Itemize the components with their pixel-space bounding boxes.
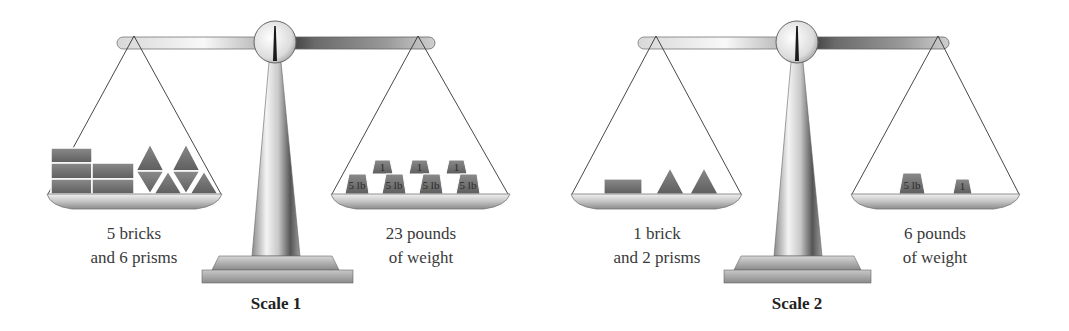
scale-1: 1 1 1 5 lb 5 lb 5 lb — [47, 21, 510, 313]
scale-2-title: Scale 2 — [772, 294, 823, 313]
weight-5lb: 5 lb — [345, 174, 369, 194]
weight-5lb: 5 lb — [899, 173, 925, 194]
scale-1-prisms — [136, 144, 218, 194]
scale-2-stem — [774, 62, 822, 256]
scale-2-bricks — [604, 179, 642, 194]
scale-1-left-label-line1: 5 bricks — [107, 224, 161, 243]
scale-1-right-label-line2: of weight — [389, 248, 454, 267]
weight-5lb: 5 lb — [419, 174, 443, 194]
scale-1-title: Scale 1 — [251, 294, 302, 313]
scale-2-pivot-icon — [776, 21, 818, 63]
scale-2-left-strings — [572, 36, 741, 194]
scale-2-left-label-line1: 1 brick — [633, 224, 681, 243]
svg-text:5 lb: 5 lb — [349, 179, 366, 191]
weight-1lb: 1 — [446, 160, 467, 174]
scale-2-left-label-line2: and 2 prisms — [614, 248, 701, 267]
scale-1-right-label-line1: 23 pounds — [386, 224, 456, 243]
svg-text:1: 1 — [417, 161, 423, 173]
svg-text:5 lb: 5 lb — [460, 179, 477, 191]
balance-scales-diagram: 1 1 1 5 lb 5 lb 5 lb — [0, 0, 1069, 331]
weight-1lb: 1 — [372, 160, 393, 174]
svg-text:1: 1 — [454, 161, 460, 173]
scale-1-base — [202, 256, 353, 283]
scale-1-left-label-line2: and 6 prisms — [91, 248, 178, 267]
scale-1-bricks — [51, 148, 134, 194]
scale-1-right-pan — [331, 194, 510, 209]
scale-1-weights: 1 1 1 5 lb 5 lb 5 lb — [345, 160, 480, 194]
scale-2-right-strings — [852, 36, 1019, 194]
scale-1-stem — [252, 62, 300, 256]
scale-2-weights: 5 lb 1 — [899, 173, 972, 194]
scale-2: 5 lb 1 1 brick and 2 prisms 6 pounds of … — [571, 21, 1020, 313]
svg-text:5 lb: 5 lb — [423, 179, 440, 191]
scale-1-pivot-icon — [254, 21, 296, 63]
svg-text:1: 1 — [960, 180, 966, 192]
scale-2-left-pan — [571, 194, 742, 209]
scale-2-right-label-line1: 6 pounds — [904, 224, 966, 243]
weight-5lb: 5 lb — [456, 174, 480, 194]
scale-2-right-pan — [851, 194, 1020, 209]
scale-2-right-label-line2: of weight — [903, 248, 968, 267]
scale-2-base — [724, 256, 871, 283]
weight-5lb: 5 lb — [382, 174, 406, 194]
svg-text:1: 1 — [380, 161, 386, 173]
weight-1lb: 1 — [409, 160, 430, 174]
svg-text:5 lb: 5 lb — [904, 179, 921, 191]
scale-2-prisms — [656, 168, 718, 194]
scale-1-left-pan — [47, 194, 222, 209]
svg-text:5 lb: 5 lb — [386, 179, 403, 191]
weight-1lb: 1 — [953, 179, 972, 194]
